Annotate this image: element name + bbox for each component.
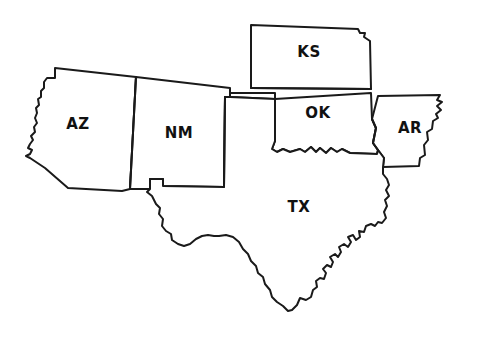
border-ks-ok (251, 88, 371, 89)
state-label-ar: AR (398, 119, 422, 137)
map-container: AZ NM KS OK AR TX (0, 0, 478, 346)
state-label-nm: NM (165, 124, 193, 142)
states-outline-map: AZ NM KS OK AR TX (0, 0, 478, 346)
border-nm-tx (224, 97, 225, 187)
state-label-az: AZ (66, 115, 90, 133)
state-label-tx: TX (288, 198, 311, 216)
state-label-ks: KS (297, 43, 320, 61)
state-label-ok: OK (305, 104, 331, 122)
